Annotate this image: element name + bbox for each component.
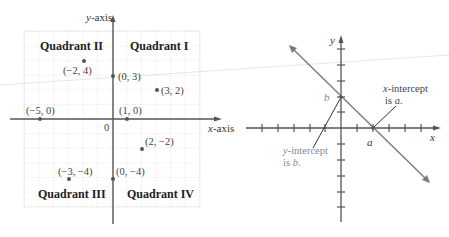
right-x-axis-arrow-icon: [433, 126, 441, 131]
quadrant-2-label: Quadrant II: [40, 39, 103, 53]
x-axis-arrow-icon: [214, 117, 222, 122]
point-2-neg2: [140, 147, 144, 151]
point-label-neg5-0: (−5, 0): [26, 105, 55, 117]
quadrant-1-label: Quadrant I: [130, 39, 189, 53]
point-0-neg4: [111, 177, 115, 181]
right-x-label: x: [429, 131, 435, 143]
coordinate-plane-chart: y-axis x-axis 0 Quadrant II Quadrant I Q…: [10, 11, 234, 224]
y-intercept-annotation-line2: is b.: [283, 157, 301, 168]
origin-label: 0: [104, 122, 109, 133]
point-neg5-0: [38, 117, 42, 121]
y-axis-label: y-axis: [85, 11, 112, 23]
a-label: a: [367, 136, 373, 148]
x-intercept-annotation-line2: is a.: [385, 95, 403, 106]
point-label-neg3-neg4: (−3, −4): [58, 166, 93, 178]
intercept-line: [294, 50, 425, 178]
figure-canvas: y-axis x-axis 0 Quadrant II Quadrant I Q…: [0, 0, 449, 237]
quadrant-4-label: Quadrant IV: [127, 187, 194, 201]
quadrant-3-label: Quadrant III: [38, 187, 106, 201]
point-1-0: [125, 117, 129, 121]
point-label-1-0: (1, 0): [119, 105, 142, 117]
y-intercept-point: [339, 95, 343, 99]
point-neg2-4: [82, 59, 86, 63]
b-label: b: [324, 91, 330, 103]
point-3-2: [155, 88, 159, 92]
point-label-0-3: (0, 3): [118, 71, 141, 83]
point-label-0-neg4: (0, −4): [116, 166, 145, 178]
x-axis-label: x-axis: [207, 122, 234, 134]
y-intercept-annotation-line1: y-intercept: [282, 145, 328, 156]
right-y-label: y: [329, 34, 335, 46]
point-label-neg2-4: (−2, 4): [63, 65, 92, 77]
point-label-2-neg2: (2, −2): [145, 136, 174, 148]
x-intercept-annotation-line1: x-intercept: [382, 83, 428, 94]
point-neg3-neg4: [67, 177, 71, 181]
point-label-3-2: (3, 2): [161, 85, 184, 97]
x-intercept-leader: [374, 106, 396, 127]
y-intercept-leader: [313, 99, 340, 148]
right-y-axis-arrow-icon: [339, 35, 344, 43]
point-0-3: [111, 74, 115, 78]
